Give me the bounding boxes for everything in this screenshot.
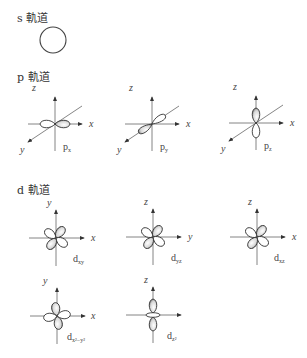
orbital-label: dxz (274, 252, 285, 264)
orbital-label: px (63, 141, 71, 153)
axis-label-vertical: y (42, 275, 48, 286)
axis-label-vertical: z (232, 81, 237, 92)
axis-label-vertical: z (247, 196, 252, 207)
orbital-label: dyz (171, 252, 182, 264)
axis-label-horizontal: x (90, 310, 96, 321)
axis-label-vertical: z (128, 82, 133, 93)
dz2-lobes-icon (146, 299, 160, 331)
orbital-label: dxy (73, 253, 84, 265)
pz-orbital: z x y pz (220, 81, 295, 154)
axis-label-vertical: z (31, 82, 36, 93)
dz2-orbital: z dz² (126, 274, 181, 343)
axis-label-diagonal: y (19, 144, 25, 155)
axis-label-diagonal: y (116, 144, 122, 155)
axis-label-diagonal: y (220, 143, 226, 154)
axis-label-vertical: z (143, 196, 148, 207)
py-orbital: z x y py (116, 82, 191, 155)
axis-label-vertical: y (46, 197, 52, 208)
dxy-orbital: y x dxy (29, 197, 96, 266)
orbital-diagram: z x y px z x y py z x y pz (0, 0, 307, 358)
px-orbital: z x y px (19, 82, 94, 155)
axis-label-horizontal: x (88, 118, 94, 129)
dyz-orbital: z y dyz (126, 196, 193, 265)
orbital-label: py (160, 141, 168, 153)
orbital-label: dx²−y² (67, 331, 85, 343)
axis-label-horizontal: x (90, 232, 96, 243)
dx2y2-lobes-icon (44, 303, 71, 330)
axis-label-horizontal: x (185, 118, 191, 129)
orbital-label: pz (264, 140, 272, 152)
orbital-label: dz² (167, 330, 177, 342)
dxz-orbital: z x dxz (230, 196, 297, 265)
dx2y2-orbital: y x dx²−y² (30, 275, 96, 344)
axis-label-vertical: z (143, 274, 148, 285)
axis-label-horizontal: x (289, 117, 295, 128)
axis-label-horizontal: x (291, 231, 297, 242)
s-orbital (40, 27, 66, 53)
axis-label-horizontal: y (187, 231, 193, 242)
s-orbital-sphere-icon (40, 27, 66, 53)
